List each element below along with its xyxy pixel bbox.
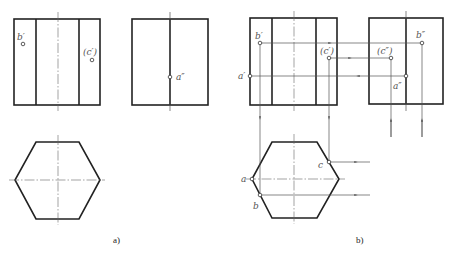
caption-b: b) bbox=[356, 235, 364, 245]
top-view-b bbox=[246, 134, 345, 224]
top-view-a bbox=[9, 135, 105, 225]
label-c-top-b: c bbox=[318, 160, 323, 170]
label-a-side-a: a″ bbox=[176, 72, 185, 82]
label-b-front-a: b′ bbox=[17, 32, 25, 42]
point-b-front-b bbox=[258, 41, 262, 45]
projection-lines bbox=[250, 43, 422, 195]
point-c-top-b bbox=[327, 160, 331, 164]
label-a-front-b: a′ bbox=[238, 71, 245, 81]
point-a-side-b bbox=[404, 74, 408, 78]
figure-a bbox=[9, 12, 208, 225]
point-c-front bbox=[90, 58, 94, 62]
point-a-side bbox=[168, 75, 172, 79]
point-c-side-b bbox=[389, 56, 393, 60]
label-c-side-b: (c″) bbox=[377, 46, 393, 56]
front-view-a bbox=[14, 12, 100, 111]
side-view-a bbox=[132, 12, 208, 111]
side-view-b bbox=[369, 11, 443, 111]
figure-b bbox=[246, 11, 443, 224]
point-b-front bbox=[21, 42, 25, 46]
point-c-front-b bbox=[327, 56, 331, 60]
point-a-top-b bbox=[250, 177, 254, 181]
label-a-top-b: a bbox=[241, 174, 246, 184]
label-c-front-b: (c′) bbox=[320, 46, 335, 56]
label-a-side-b: a″ bbox=[393, 81, 402, 91]
point-a-front-b bbox=[248, 74, 252, 78]
caption-a: a) bbox=[113, 235, 120, 245]
label-b-side-b: b″ bbox=[416, 30, 426, 40]
label-c-front-a: (c′) bbox=[83, 47, 98, 57]
label-b-top-b: b bbox=[253, 201, 259, 211]
point-b-side-b bbox=[420, 41, 424, 45]
point-b-top-b bbox=[258, 193, 262, 197]
label-b-front-b: b′ bbox=[255, 31, 263, 41]
front-view-b bbox=[250, 11, 337, 111]
projection-diagram: b′ (c′) a″ a) b′ (c′) a′ b″ (c″) a″ a b … bbox=[0, 0, 454, 253]
